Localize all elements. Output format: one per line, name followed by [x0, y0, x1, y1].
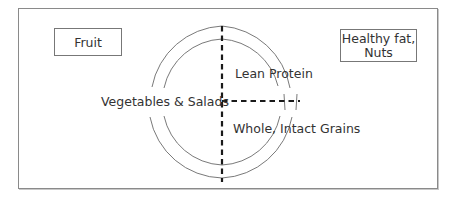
fruit-box: Fruit: [54, 28, 122, 56]
healthy-fat-label: Healthy fat, Nuts: [342, 32, 415, 60]
plate-dividers: [222, 26, 300, 182]
inner-rim-left-upper: [164, 39, 222, 88]
outer-rim-right-stub: [296, 94, 297, 110]
healthy-fat-line2: Nuts: [342, 46, 415, 60]
protein-label: Lean Protein: [235, 66, 313, 81]
healthy-fat-line1: Healthy fat,: [342, 32, 415, 46]
fruit-label: Fruit: [74, 35, 102, 50]
grains-label: Whole, Intact Grains: [233, 121, 360, 136]
outer-rim-left-upper: [152, 26, 222, 87]
outer-rim-left-lower: [150, 117, 222, 178]
vegetables-label: Vegetables & Salads: [101, 94, 229, 109]
healthy-fat-box: Healthy fat, Nuts: [340, 29, 417, 62]
